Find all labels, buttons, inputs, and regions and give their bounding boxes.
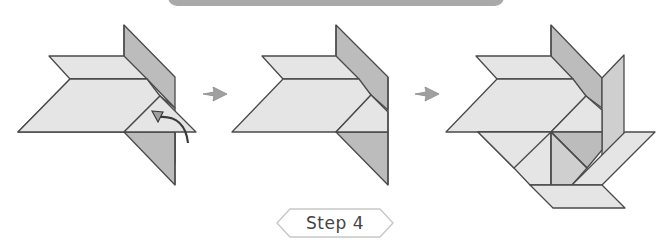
panel-1 (18, 25, 196, 185)
right-arrow-icon (415, 87, 439, 101)
dark-triangle-lower (124, 132, 175, 185)
dark-triangle-lower (336, 132, 388, 185)
panel-2 (232, 25, 388, 185)
bottom-parallelogram (530, 185, 625, 208)
step-label: Step 4 (276, 208, 394, 238)
step-text: Step 4 (276, 208, 394, 238)
right-arrow-icon (203, 87, 227, 101)
panel-3 (446, 25, 655, 208)
lower-left-region (478, 132, 551, 185)
